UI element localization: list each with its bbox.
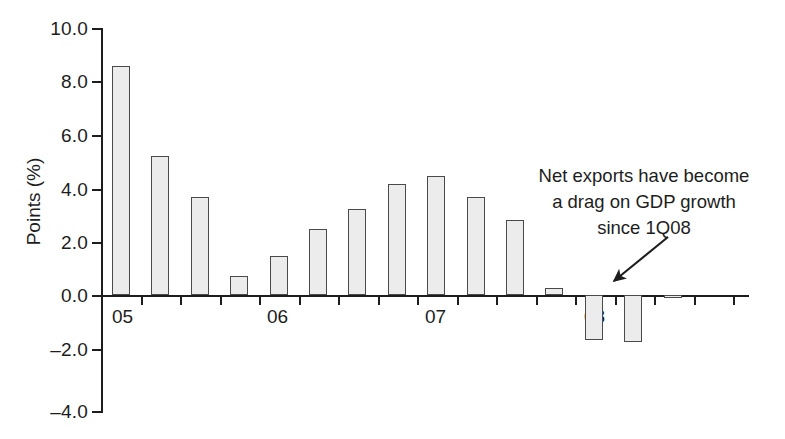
x-axis-tick [299,296,301,305]
annotation-text: Net exports have become a drag on GDP gr… [513,163,775,241]
x-axis-tick [575,296,577,305]
x-axis-tick [259,296,261,305]
bar [230,276,248,295]
bar [309,229,327,295]
x-axis-tick [417,296,419,305]
x-axis-tick [733,296,735,305]
x-axis-tick [338,296,340,305]
y-axis-tick-label: 4.0 [0,180,88,199]
y-axis-title: Points (%) [24,122,43,282]
bar [545,288,563,295]
x-axis-tick [654,296,656,305]
annotation-line-1: Net exports have become [513,163,775,189]
y-axis-tick [92,81,102,83]
y-axis-tick-label: –2.0 [0,340,88,359]
x-axis-tick [378,296,380,305]
x-axis-line [101,295,749,297]
bar [112,66,130,295]
x-axis-tick [536,296,538,305]
bar-chart: Points (%) 10.0 8.0 6.0 4.0 2.0 0.0 –2.0… [0,0,785,439]
x-axis-tick [457,296,459,305]
y-axis-tick-label: –4.0 [0,402,88,421]
y-axis-tick-label: 2.0 [0,233,88,252]
y-axis-tick-label: 10.0 [0,19,88,38]
bar [270,256,288,295]
x-axis-tick [694,296,696,305]
x-axis-tick [180,296,182,305]
x-axis-label-06: 06 [267,307,288,326]
y-axis-tick [92,28,102,30]
bar [585,295,603,340]
bar [427,176,445,295]
bar [467,197,485,295]
x-axis-label-07: 07 [425,307,446,326]
x-axis-tick [141,296,143,305]
x-axis-tick [496,296,498,305]
y-axis-tick [92,349,102,351]
y-axis-tick [92,189,102,191]
y-axis-tick-label: 0.0 [0,286,88,305]
bar [348,209,366,295]
y-axis-tick-label: 6.0 [0,126,88,145]
bar [624,295,642,342]
x-axis-tick [220,296,222,305]
annotation-arrow-icon [600,232,680,294]
y-axis-tick-label: 8.0 [0,72,88,91]
bar [388,184,406,295]
annotation-line-2: a drag on GDP growth [513,189,775,215]
y-axis-tick [92,135,102,137]
y-axis-tick [92,411,102,413]
bar [191,197,209,295]
bar [664,295,682,298]
x-axis-label-05: 05 [112,307,133,326]
y-axis-tick [92,242,102,244]
x-axis-tick [615,296,617,305]
bar [151,156,169,295]
y-axis-line [101,28,103,413]
